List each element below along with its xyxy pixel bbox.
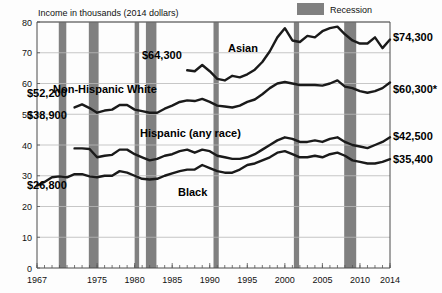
x-tick-label: 1990 (200, 275, 220, 285)
value-annotation: $60,300* (393, 83, 438, 95)
value-annotation: $42,500 (393, 130, 433, 142)
y-tick-label: 20 (22, 202, 32, 212)
x-tick-label: 1975 (87, 275, 107, 285)
series-name-label: Non-Hispanic White (53, 83, 157, 95)
x-tick-label: 1985 (162, 275, 182, 285)
value-annotation: $52,200 (27, 87, 67, 99)
x-tick-label: 2010 (350, 275, 370, 285)
chart-background (0, 0, 442, 293)
x-tick-label: 1967 (27, 275, 47, 285)
income-by-race-line-chart: 01020304050607080 1967197519801985199019… (0, 0, 442, 293)
x-tick-label: 1995 (237, 275, 257, 285)
series-name-label: Hispanic (any race) (140, 127, 241, 139)
y-tick-label: 80 (22, 18, 32, 28)
value-annotation: $38,900 (27, 109, 67, 121)
recession-legend-swatch (297, 3, 324, 15)
series-name-label: Black (178, 186, 208, 198)
series-name-label: Asian (228, 42, 258, 54)
x-tick-label: 2000 (275, 275, 295, 285)
x-tick-label: 2014 (380, 275, 400, 285)
chart-page: 01020304050607080 1967197519801985199019… (0, 0, 442, 293)
y-tick-label: 0 (27, 264, 32, 274)
y-tick-label: 10 (22, 233, 32, 243)
x-tick-label: 1980 (125, 275, 145, 285)
y-tick-label: 70 (22, 48, 32, 58)
chart-axis-title: Income in thousands (2014 dollars) (38, 8, 179, 18)
legend: Recession (297, 3, 372, 15)
y-tick-label: 40 (22, 141, 32, 151)
value-annotation: $64,300 (142, 49, 182, 61)
x-tick-label: 2005 (312, 275, 332, 285)
value-annotation: $26,800 (27, 179, 67, 191)
recession-legend-label: Recession (330, 5, 372, 15)
value-annotation: $35,400 (393, 153, 433, 165)
value-annotation: $74,300 (393, 31, 433, 43)
